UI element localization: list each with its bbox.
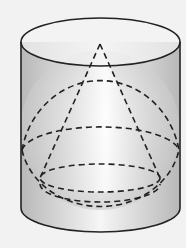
geometry-diagram (0, 0, 186, 248)
